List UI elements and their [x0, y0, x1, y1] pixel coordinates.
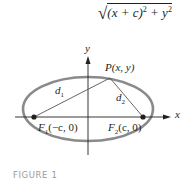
focus-1-label: F1(−c, 0): [38, 121, 78, 136]
x-axis-arrow-icon: [163, 115, 171, 120]
figure-caption: FIGURE 1: [13, 170, 57, 180]
focus-2-point: [140, 114, 145, 119]
d1-label: d1: [55, 84, 64, 99]
d2-label: d2: [116, 91, 125, 106]
y-axis-arrow-icon: [86, 56, 91, 64]
point-p-label: P(x, y): [105, 61, 134, 73]
y-axis-label: y: [85, 42, 90, 54]
x-axis-label: x: [175, 108, 180, 120]
focus-1-point: [31, 114, 36, 119]
focus-2-label: F2(c, 0): [108, 121, 141, 136]
ellipse-diagram: [0, 0, 193, 186]
